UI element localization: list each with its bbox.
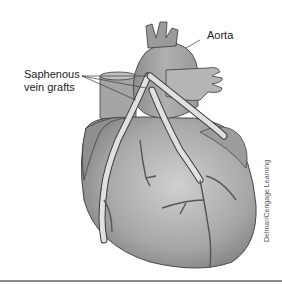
grafts-label-line2: vein grafts (24, 81, 94, 94)
heart-illustration (0, 0, 282, 284)
grafts-label-line1: Saphenous (24, 68, 94, 81)
aorta-label: Aorta (207, 29, 233, 42)
bottom-divider (0, 280, 282, 282)
grafts-label: Saphenous vein grafts (24, 68, 94, 94)
heart-bypass-figure: Aorta Saphenous vein grafts Delmar/Cenga… (0, 0, 282, 284)
credit-text: Delmar/Cengage Learning (263, 160, 270, 242)
